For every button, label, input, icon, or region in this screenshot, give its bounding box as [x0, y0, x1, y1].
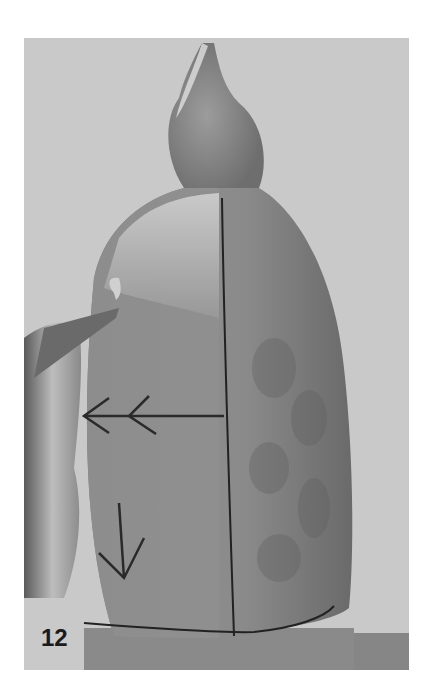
- step-number: 12: [41, 624, 68, 652]
- carving-illustration: [24, 38, 409, 670]
- carving-photo: 12: [24, 38, 409, 670]
- bird-head: [168, 43, 264, 188]
